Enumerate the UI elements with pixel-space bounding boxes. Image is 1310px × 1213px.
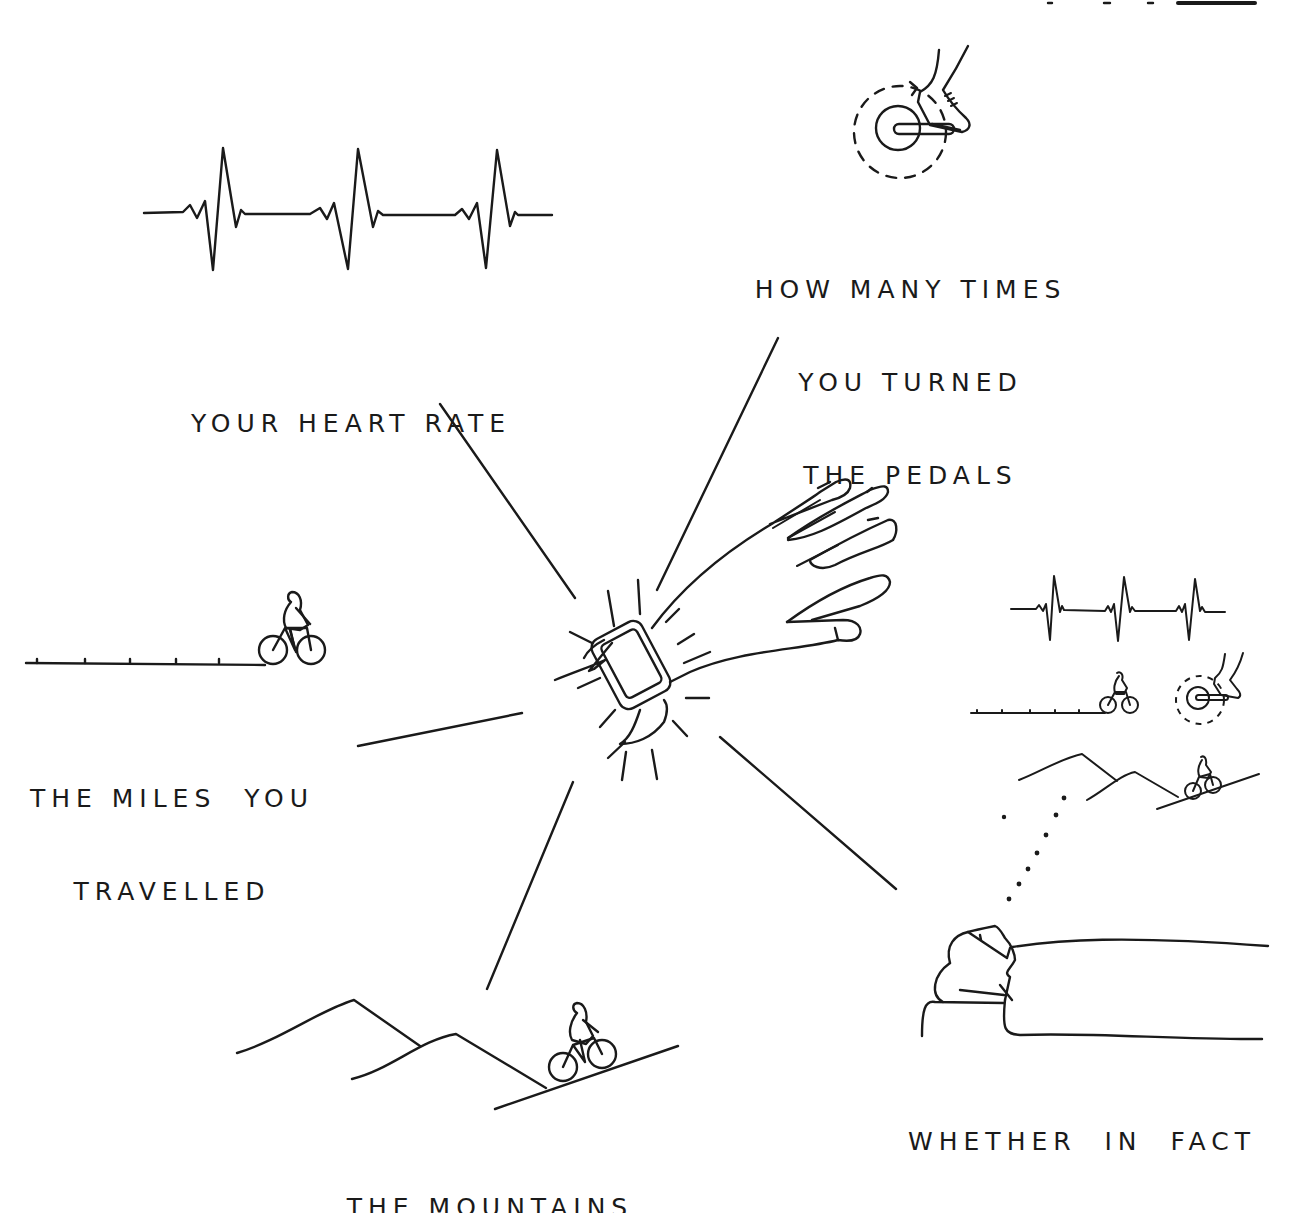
caption-miles-line-1: THE MILES YOU [22, 783, 322, 814]
heartbeat-mini-icon [1011, 576, 1225, 641]
caption-asleep: WHETHER IN FACT YOU WERE ASLEEP AND DREA… [862, 1064, 1302, 1213]
heartbeat-icon [144, 148, 552, 270]
caption-pedals: HOW MANY TIMES YOU TURNED THE PEDALS [738, 212, 1083, 522]
pedal-foot-icon [854, 46, 969, 178]
caption-miles-line-2: TRAVELLED [22, 876, 322, 907]
pedal-foot-mini-icon [1176, 653, 1243, 724]
caption-asleep-line-1: WHETHER IN FACT [862, 1126, 1302, 1157]
caption-pedals-line-1: HOW MANY TIMES [738, 274, 1083, 305]
mountains-cyclist-icon [237, 1000, 678, 1109]
caption-pedals-line-3: THE PEDALS [738, 460, 1083, 491]
smartwatch-illustration [0, 0, 1310, 1213]
caption-heart-rate-line: YOUR HEART RATE [186, 408, 516, 439]
mountains-mini-icon [1003, 754, 1259, 818]
cyclist-distance-icon [26, 592, 325, 665]
caption-heart-rate: YOUR HEART RATE [186, 346, 516, 470]
caption-mountains: THE MOUNTAINS YOU CLIMBED [330, 1130, 650, 1213]
caption-mountains-line-1: THE MOUNTAINS [330, 1192, 650, 1213]
caption-miles: THE MILES YOU TRAVELLED [22, 721, 322, 938]
caption-pedals-line-2: YOU TURNED [738, 367, 1083, 398]
smartwatch-hand-icon [555, 480, 896, 780]
cyclist-distance-mini-icon [971, 672, 1138, 713]
dream-bubble-icon [1007, 796, 1067, 902]
sleeping-person-icon [922, 926, 1268, 1039]
